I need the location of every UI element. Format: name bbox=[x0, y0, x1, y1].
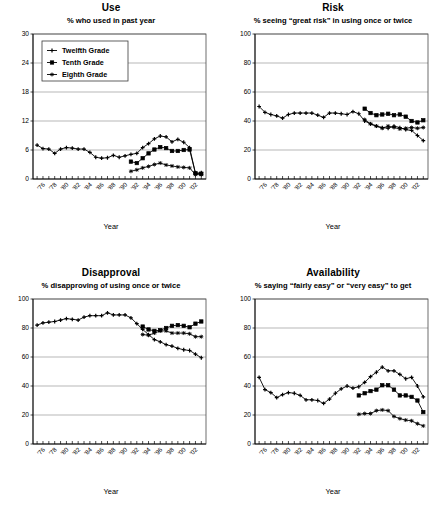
x-tick-label: '96 bbox=[153, 445, 164, 456]
y-tick-label: 40 bbox=[244, 382, 252, 389]
chart-title: Availability bbox=[222, 267, 444, 278]
chart-legend: Twelfth GradeTenth GradeEighth Grade bbox=[42, 41, 128, 81]
chart-panel-use: Use % who used in past year 0612182430'7… bbox=[0, 0, 222, 265]
y-tick-label: 80 bbox=[244, 324, 252, 331]
x-tick-label: '00 bbox=[176, 445, 187, 456]
y-tick-label: 6 bbox=[25, 146, 29, 153]
x-tick-label: '76 bbox=[258, 445, 269, 456]
x-tick-label: '92 bbox=[129, 445, 140, 456]
y-tick-label: 100 bbox=[240, 295, 251, 302]
y-tick-label: 18 bbox=[22, 88, 30, 95]
y-tick-label: 20 bbox=[22, 411, 30, 418]
y-tick-label: 80 bbox=[22, 324, 30, 331]
x-tick-label: '76 bbox=[258, 180, 269, 191]
x-tick-label: '84 bbox=[304, 180, 315, 191]
x-tick-label: '94 bbox=[363, 445, 374, 456]
plot-area: 020406080100'76'78'80'82'84'86'88'90'92'… bbox=[222, 293, 444, 478]
x-tick-label: '94 bbox=[141, 180, 152, 191]
chart-svg: 0612182430'76'78'80'82'84'86'88'90'92'94… bbox=[0, 28, 222, 213]
y-tick-label: 0 bbox=[25, 175, 29, 182]
x-tick-label: '76 bbox=[36, 180, 47, 191]
x-tick-label: '88 bbox=[106, 180, 117, 191]
y-tick-label: 60 bbox=[244, 88, 252, 95]
series-tenth-grade bbox=[357, 384, 425, 414]
x-tick-label: '98 bbox=[165, 180, 176, 191]
series-tenth-grade bbox=[141, 320, 203, 333]
x-tick-label: '86 bbox=[94, 180, 105, 191]
x-tick-label: '02 bbox=[188, 445, 199, 456]
x-tick-label: '98 bbox=[387, 180, 398, 191]
y-tick-label: 20 bbox=[244, 411, 252, 418]
x-tick-label: '92 bbox=[129, 180, 140, 191]
y-tick-label: 100 bbox=[18, 295, 29, 302]
plot-area: 020406080100'76'78'80'82'84'86'88'90'92'… bbox=[222, 28, 444, 213]
y-tick-label: 0 bbox=[247, 440, 251, 447]
series-twelfth-grade bbox=[35, 311, 203, 360]
x-axis-title: Year bbox=[0, 222, 222, 231]
x-tick-label: '90 bbox=[118, 445, 129, 456]
y-tick-label: 60 bbox=[244, 353, 252, 360]
y-tick-label: 0 bbox=[25, 440, 29, 447]
x-tick-label: '78 bbox=[47, 180, 58, 191]
x-tick-label: '94 bbox=[141, 445, 152, 456]
x-tick-label: '88 bbox=[328, 445, 339, 456]
chart-title: Disapproval bbox=[0, 267, 222, 278]
y-tick-label: 12 bbox=[22, 117, 30, 124]
y-tick-label: 40 bbox=[244, 117, 252, 124]
y-tick-label: 60 bbox=[22, 353, 30, 360]
y-tick-label: 80 bbox=[244, 59, 252, 66]
chart-panel-disapproval: Disapproval % disapproving of using once… bbox=[0, 265, 222, 530]
chart-panel-availability: Availability % saying “fairly easy” or “… bbox=[222, 265, 444, 530]
series-line bbox=[359, 385, 424, 412]
x-tick-label: '96 bbox=[375, 445, 386, 456]
x-tick-label: '88 bbox=[328, 180, 339, 191]
x-tick-label: '84 bbox=[82, 180, 93, 191]
plot-frame bbox=[255, 299, 428, 444]
x-tick-label: '82 bbox=[71, 445, 82, 456]
x-tick-label: '00 bbox=[398, 445, 409, 456]
x-tick-label: '82 bbox=[71, 180, 82, 191]
series-twelfth-grade bbox=[257, 105, 425, 143]
series-line bbox=[259, 367, 423, 403]
x-tick-label: '82 bbox=[293, 180, 304, 191]
series-twelfth-grade bbox=[35, 134, 203, 175]
series-twelfth-grade bbox=[257, 365, 425, 405]
x-tick-label: '80 bbox=[59, 445, 70, 456]
x-tick-label: '90 bbox=[118, 180, 129, 191]
x-tick-label: '80 bbox=[59, 180, 70, 191]
y-tick-label: 30 bbox=[22, 30, 30, 37]
x-tick-label: '96 bbox=[153, 180, 164, 191]
y-tick-label: 0 bbox=[247, 175, 251, 182]
series-line bbox=[359, 410, 424, 426]
y-tick-label: 40 bbox=[22, 382, 30, 389]
chart-subtitle: % disapproving of using once or twice bbox=[0, 281, 222, 290]
x-tick-label: '84 bbox=[304, 445, 315, 456]
x-tick-label: '80 bbox=[281, 445, 292, 456]
x-tick-label: '00 bbox=[176, 180, 187, 191]
series-line bbox=[259, 107, 423, 141]
chart-subtitle: % saying “fairly easy” or “very easy” to… bbox=[222, 281, 444, 290]
plot-area: 020406080100'76'78'80'82'84'86'88'90'92'… bbox=[0, 293, 222, 478]
x-tick-label: '98 bbox=[387, 445, 398, 456]
chart-panel-risk: Risk % seeing “great risk” in using once… bbox=[222, 0, 444, 265]
series-eighth-grade bbox=[129, 161, 203, 177]
figure-panel-grid: Use % who used in past year 0612182430'7… bbox=[0, 0, 444, 531]
legend-label: Eighth Grade bbox=[62, 70, 107, 79]
legend-label: Twelfth Grade bbox=[62, 46, 109, 55]
x-tick-label: '82 bbox=[293, 445, 304, 456]
x-tick-label: '86 bbox=[94, 445, 105, 456]
x-tick-label: '86 bbox=[316, 445, 327, 456]
x-tick-label: '76 bbox=[36, 445, 47, 456]
x-tick-label: '88 bbox=[106, 445, 117, 456]
x-axis-title: Year bbox=[0, 487, 222, 496]
x-tick-label: '02 bbox=[410, 445, 421, 456]
chart-svg: 020406080100'76'78'80'82'84'86'88'90'92'… bbox=[0, 293, 222, 478]
chart-title: Use bbox=[0, 2, 222, 13]
chart-title: Risk bbox=[222, 2, 444, 13]
series-tenth-grade bbox=[363, 107, 425, 124]
x-tick-label: '96 bbox=[375, 180, 386, 191]
plot-area: 0612182430'76'78'80'82'84'86'88'90'92'94… bbox=[0, 28, 222, 213]
x-tick-label: '84 bbox=[82, 445, 93, 456]
series-eighth-grade bbox=[357, 408, 426, 428]
plot-frame bbox=[255, 34, 428, 179]
